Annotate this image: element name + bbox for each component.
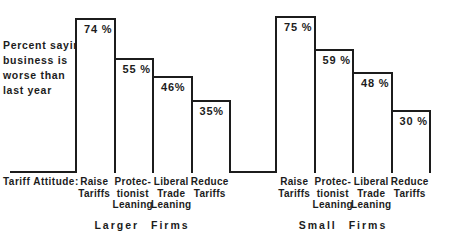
bar-larger-3: 46% — [152, 76, 193, 173]
bar-value-label: 48 % — [354, 74, 391, 89]
bar-value-label: 75 % — [277, 18, 314, 33]
bar-small-1: 75 % — [275, 16, 316, 174]
category-label: ReduceTariffs — [179, 176, 241, 199]
bar-small-4: 30 % — [391, 110, 432, 173]
group-label-larger-firms: Larger Firms — [62, 219, 222, 231]
bar-value-label: 35% — [193, 102, 230, 117]
group-label-small-firms: Small Firms — [263, 219, 423, 231]
bar-larger-1: 74 % — [75, 18, 116, 173]
bar-value-label: 30 % — [393, 112, 430, 127]
bar-value-label: 46% — [154, 78, 191, 93]
bar-larger-2: 55 % — [114, 58, 155, 174]
category-label-line: Reduce — [179, 176, 241, 188]
category-label: ReduceTariffs — [379, 176, 441, 199]
bar-small-3: 48 % — [352, 72, 393, 173]
category-label-line: Tariffs — [179, 188, 241, 200]
tariff-attitude-chart: Percent saying business is worse than la… — [0, 0, 454, 246]
category-label-line: Leaning — [340, 199, 402, 211]
bar-value-label: 55 % — [116, 60, 153, 75]
bar-value-label: 59 % — [316, 51, 353, 66]
category-label-line: Reduce — [379, 176, 441, 188]
category-label-line: Tariffs — [379, 188, 441, 200]
bar-value-label: 74 % — [77, 20, 114, 35]
bar-small-2: 59 % — [314, 49, 355, 173]
category-label-line: Leaning — [140, 199, 202, 211]
bar-larger-4: 35% — [191, 100, 232, 174]
